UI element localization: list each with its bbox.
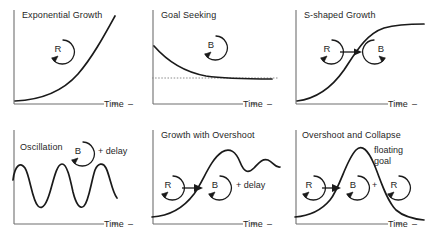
x-axis-arrow: – — [267, 219, 272, 229]
loop-label-b: B — [72, 146, 84, 156]
axes — [153, 130, 243, 224]
panel-title: Exponential Growth — [22, 10, 102, 20]
loop-label-r: R — [52, 44, 64, 54]
panel-oscillation: Oscillation B + delay Time – — [0, 120, 144, 240]
curve-goal-seeking — [154, 46, 272, 79]
loop-label-r: R — [162, 180, 174, 190]
x-axis-arrow: – — [128, 219, 133, 229]
panel-title: Overshoot and Collapse — [302, 130, 401, 140]
panel-exponential-growth: Exponential Growth R Time – — [0, 0, 144, 120]
loop-label-r: R — [321, 44, 333, 54]
panel-growth-with-overshoot: Growth with Overshoot R B + delay Time – — [144, 120, 288, 240]
loop-label-r-1: R — [303, 180, 315, 190]
panel-title: Growth with Overshoot — [161, 130, 255, 140]
annotation-floating-goal: floating goal — [374, 145, 416, 167]
panel-title: S-shaped Growth — [304, 10, 376, 20]
loop-label-b: B — [205, 40, 217, 50]
panel-overshoot-and-collapse: Overshoot and Collapse floating goal R B… — [288, 120, 432, 240]
x-axis-label: Time — [243, 99, 263, 109]
x-axis-label: Time — [104, 99, 124, 109]
loop-label-b: B — [375, 44, 387, 54]
panel-title: Goal Seeking — [161, 10, 216, 20]
x-axis-arrow: – — [128, 99, 133, 109]
loop-label-b: B — [209, 180, 221, 190]
x-axis-label: Time — [104, 219, 124, 229]
x-axis-arrow: – — [267, 99, 272, 109]
curve-s-shaped — [297, 24, 424, 101]
curve-oscillation — [13, 164, 117, 207]
figure-board: Exponential Growth R Time – Goal Seeking… — [0, 0, 432, 240]
panel-goal-seeking: Goal Seeking B Time – — [144, 0, 288, 120]
x-axis-arrow: – — [412, 99, 417, 109]
x-axis-arrow: – — [412, 219, 417, 229]
annotation-plus: + — [372, 180, 377, 190]
loop-label-r-2: R — [388, 180, 400, 190]
curve-exponential — [15, 16, 115, 101]
x-axis-label: Time — [243, 219, 263, 229]
panel-title: Oscillation — [20, 142, 63, 152]
annotation-delay: + delay — [236, 180, 265, 190]
x-axis-label: Time — [388, 99, 408, 109]
x-axis-label: Time — [388, 219, 408, 229]
loop-label-b: B — [347, 180, 359, 190]
annotation-delay: + delay — [98, 146, 127, 156]
panel-s-shaped-growth: S-shaped Growth R B Time – — [288, 0, 432, 120]
